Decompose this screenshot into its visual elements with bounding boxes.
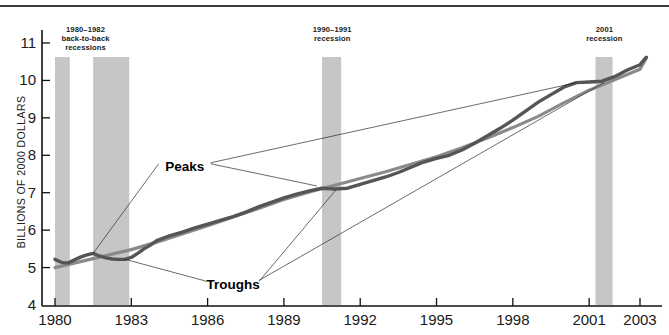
y-tick-label-4: 4 [28, 296, 36, 313]
recession-band-r1990 [322, 57, 341, 305]
y-tick-label-9: 9 [28, 109, 36, 126]
troughs-leader-1982 [124, 259, 207, 281]
recession-band-r2001 [595, 57, 612, 305]
recession-note-r1981: 1980–1982back-to-backrecessions [61, 25, 110, 52]
recession-note-r2001: 2001recession [586, 25, 623, 43]
chart-figure: BILLIONS OF 2000 DOLLARS 456789101119801… [0, 0, 669, 335]
recession-bands-layer [55, 57, 613, 305]
x-tick-label-2003: 2003 [623, 311, 656, 328]
series-layer [55, 57, 646, 267]
troughs-label: Troughs [206, 277, 259, 292]
y-tick-label-5: 5 [28, 259, 36, 276]
recession-note-r1990: 1990–1991recession [313, 25, 353, 43]
top-rule-divider [0, 5, 669, 7]
band-notes-layer: 1980–1982back-to-backrecessions1990–1991… [61, 25, 622, 52]
y-axis-label: BILLIONS OF 2000 DOLLARS [15, 57, 27, 287]
x-tick-label-1983: 1983 [115, 311, 148, 328]
x-tick-label-2001: 2001 [572, 311, 605, 328]
series-line-actual-gdp [55, 57, 646, 263]
x-tick-label-1995: 1995 [420, 311, 453, 328]
y-tick-label-6: 6 [28, 221, 36, 238]
x-tick-label-1989: 1989 [267, 311, 300, 328]
troughs-leader-2001 [259, 82, 604, 280]
peaks-leader-1990 [211, 164, 317, 186]
x-tick-label-1980: 1980 [38, 311, 71, 328]
chart-plot-area: 4567891011198019831986198919921995199820… [0, 0, 669, 335]
y-tick-label-8: 8 [28, 146, 36, 163]
x-tick-label-1998: 1998 [496, 311, 529, 328]
x-tick-label-1992: 1992 [344, 311, 377, 328]
y-tick-label-7: 7 [28, 184, 36, 201]
recession-band-r1981 [93, 57, 129, 305]
x-tick-label-1986: 1986 [191, 311, 224, 328]
y-tick-label-11: 11 [20, 34, 36, 51]
peaks-label: Peaks [165, 159, 204, 174]
